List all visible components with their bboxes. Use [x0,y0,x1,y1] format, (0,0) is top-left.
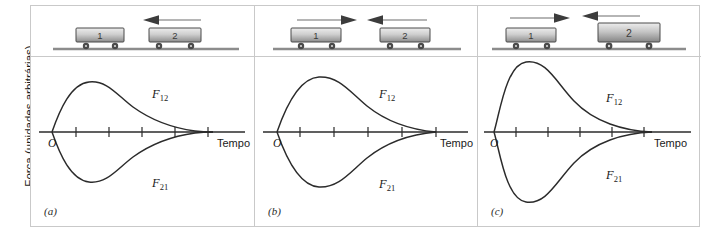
cart-1-label: 1 [313,30,318,41]
panel-label-a: (a) [44,205,57,217]
figure-frame: 1 2 [30,5,700,227]
panel-label-c: (c) [491,205,503,217]
cart-scene-b: 1 2 [255,6,477,56]
cart-scene-a: 1 2 [31,6,254,56]
cart-1: 1 [76,28,124,49]
x-axis-label: Tempo [440,137,473,149]
curve-f21 [52,132,213,182]
velocity-arrow-left-icon [582,11,640,21]
origin-label: O [48,137,57,149]
label-f12: F12 [605,91,622,107]
panel-label-b: (b) [268,205,281,217]
cart-2: 2 [149,28,201,49]
cart-scene-c: 1 2 [478,6,701,56]
label-f21: F21 [378,177,395,193]
physics-force-figure: Força (unidades arbitrárias) [0,0,705,235]
velocity-arrow-left-icon [367,15,427,25]
velocity-arrow-right-icon [297,15,357,25]
label-f21: F21 [605,168,622,184]
velocity-arrow-right-icon [510,13,570,23]
panel-a: 1 2 [31,6,254,226]
cart-2: 2 [380,28,430,49]
label-f12: F12 [151,87,168,103]
force-plot-b: O Tempo F12 F21 [255,56,477,226]
cart-1-label: 1 [97,30,102,41]
cart-1: 1 [506,28,556,49]
force-plot-c: O Tempo F12 F21 [478,56,701,226]
panel-b: 1 2 [254,6,477,226]
label-f21: F21 [151,176,168,192]
origin-label: O [490,137,499,149]
panel-c: 1 2 [477,6,701,226]
label-f12: F12 [378,87,395,103]
curve-f12 [494,62,652,132]
x-axis-label: Tempo [654,137,687,149]
cart-2-label: 2 [626,27,632,39]
force-plot-a: O Tempo F12 F21 [31,56,254,226]
curve-f12 [52,82,213,132]
cart-2-label: 2 [172,30,177,41]
curve-f21 [277,132,436,187]
curve-f12 [277,77,436,132]
cart-1: 1 [291,28,341,49]
cart-1-label: 1 [528,30,533,41]
origin-label: O [273,137,282,149]
cart-2: 2 [598,23,660,49]
cart-2-label: 2 [402,30,407,41]
velocity-arrow-left-icon [143,15,201,25]
x-axis-label: Tempo [217,137,250,149]
curve-f21 [494,132,652,202]
